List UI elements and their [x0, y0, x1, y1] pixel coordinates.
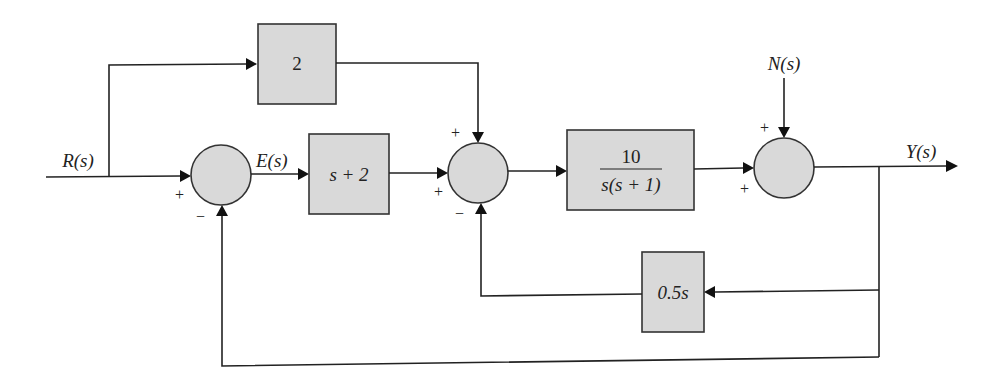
summing-junction-2	[448, 143, 508, 203]
disturbance-label: N(s)	[767, 53, 801, 75]
output-signal-label: Y(s)	[906, 141, 937, 163]
input-wire	[46, 176, 180, 177]
input-signal-label: R(s)	[61, 150, 94, 172]
arrow-into-sum2-top	[472, 132, 484, 143]
sum3-plus-left-sign: +	[740, 180, 749, 197]
sum2-plus-left-sign: +	[434, 183, 443, 200]
summing-junction-3	[754, 138, 814, 198]
block-plant	[567, 130, 694, 210]
arrow-into-sum1	[180, 170, 191, 182]
arrow-into-sum3-top	[778, 127, 790, 138]
sum1-plus-sign: +	[175, 186, 184, 203]
arrow-into-block-2	[246, 58, 257, 70]
arrow-into-controller	[298, 168, 309, 180]
plant-denominator: s(s + 1)	[601, 174, 660, 196]
summing-junction-1	[191, 145, 251, 205]
inner-feedback-in-wire	[715, 290, 879, 292]
arrow-into-sum2-bottom	[475, 203, 487, 214]
feedforward-out-wire	[336, 63, 478, 132]
plant-out-wire	[694, 168, 743, 169]
sum3-plus-top-sign: +	[760, 119, 769, 136]
arrow-into-inner-feedback-block	[704, 286, 715, 298]
error-signal-label: E(s)	[255, 150, 288, 172]
arrow-into-sum1-bottom	[216, 205, 228, 216]
sum2-minus-sign: −	[455, 205, 464, 222]
block-controller-label: s + 2	[329, 164, 369, 185]
sum2-plus-top-sign: +	[451, 124, 460, 141]
block-inner-feedback-label: 0.5s	[657, 282, 688, 303]
inner-feedback-out-wire	[481, 214, 642, 296]
block-feedforward-label: 2	[292, 53, 302, 74]
output-arrow	[946, 160, 958, 172]
arrow-into-sum3-left	[743, 162, 754, 174]
arrow-into-sum2-left	[437, 167, 448, 179]
plant-numerator: 10	[622, 146, 641, 167]
arrow-into-plant	[556, 165, 567, 177]
block-diagram: 2 + − E(s) s + 2 + + − 10 s(s + 1) N(s) …	[0, 0, 994, 387]
sum1-minus-sign: −	[196, 208, 205, 225]
output-wire	[814, 166, 946, 167]
